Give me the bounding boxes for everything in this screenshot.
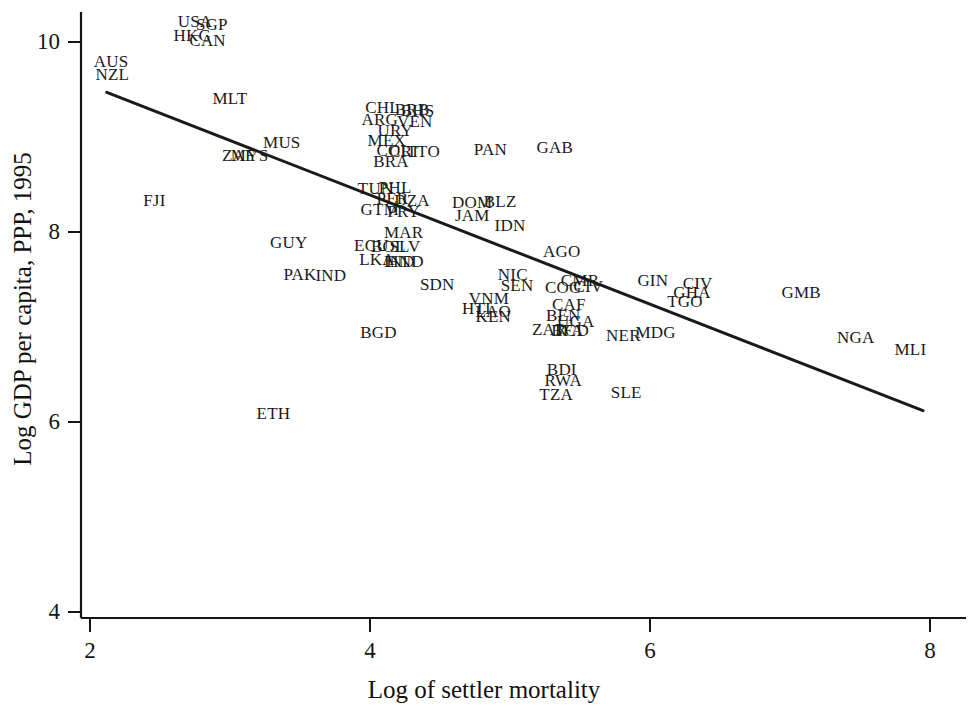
data-point-label: CAN xyxy=(189,32,226,49)
plot-data-layer: AUSNZLUSASGPHKGCANMLTMUSZAFMYSFJIGUYPAKI… xyxy=(81,10,965,618)
data-point-label: MYS xyxy=(231,147,268,164)
data-point-label: IDN xyxy=(495,217,526,234)
data-point-label: CIV xyxy=(573,278,603,295)
data-point-label: TZA xyxy=(539,385,573,402)
data-point-label: IND xyxy=(315,266,346,283)
data-point-label: PAK xyxy=(283,265,316,282)
data-point-label: GAB xyxy=(537,138,574,155)
scatter-plot-figure: 10 8 6 4 2 4 6 8 Log GDP per capita, PPP… xyxy=(0,0,968,721)
data-point-label: GIN xyxy=(637,272,668,289)
data-point-label: BRA xyxy=(373,152,409,169)
x-tick-label-2: 2 xyxy=(84,638,96,664)
data-point-label: TTO xyxy=(407,143,440,160)
data-point-label: TGO xyxy=(667,293,703,310)
y-tick-label-4: 4 xyxy=(49,599,61,625)
y-axis-title: Log GDP per capita, PPP, 1995 xyxy=(9,152,37,466)
x-tick-label-8: 8 xyxy=(924,638,936,664)
data-point-label: FJI xyxy=(143,191,165,208)
y-tick-label-6: 6 xyxy=(49,409,61,435)
data-point-label: NGA xyxy=(837,328,874,345)
data-point-label: PAN xyxy=(474,141,507,158)
x-tick-label-4: 4 xyxy=(364,638,376,664)
data-point-label: MLI xyxy=(895,340,927,357)
regression-fit-line xyxy=(107,92,923,410)
data-point-label: BGD xyxy=(360,323,397,340)
data-point-label: BFA xyxy=(551,321,583,338)
data-point-label: HND xyxy=(386,253,423,270)
y-tick-label-8: 8 xyxy=(49,219,61,245)
data-point-label: JAM xyxy=(455,206,490,223)
data-point-label: NZL xyxy=(96,66,130,83)
data-point-label: SDN xyxy=(420,276,455,293)
data-point-label: AGO xyxy=(543,243,580,260)
x-tick-label-6: 6 xyxy=(644,638,656,664)
data-point-label: MUS xyxy=(263,133,300,150)
data-point-label: KEN xyxy=(475,307,511,324)
data-point-label: MLT xyxy=(213,90,248,107)
data-point-label: PRY xyxy=(387,203,420,220)
x-axis-title: Log of settler mortality xyxy=(0,676,968,704)
data-point-label: GMB xyxy=(782,283,821,300)
data-point-label: ETH xyxy=(257,404,291,421)
y-axis-title-wrap: Log GDP per capita, PPP, 1995 xyxy=(0,0,46,618)
data-point-label: GUY xyxy=(270,233,307,250)
data-point-label: MDG xyxy=(635,323,675,340)
data-point-label: SLE xyxy=(611,383,642,400)
